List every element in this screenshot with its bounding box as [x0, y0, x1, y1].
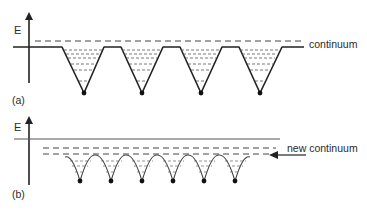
- atom-dot: [109, 179, 114, 184]
- well-centers-b: [78, 179, 238, 184]
- atom-dot: [171, 179, 176, 184]
- new-continuum-label: new continuum: [287, 142, 358, 154]
- well-centers-a: [82, 91, 263, 96]
- atom-dot: [233, 179, 238, 184]
- atom-dot: [140, 91, 145, 96]
- panel-label-b: (b): [12, 188, 25, 200]
- bound-levels-b: [70, 161, 246, 172]
- atom-dot: [202, 179, 207, 184]
- atom-dot: [258, 91, 263, 96]
- axis-label-e-b: E: [14, 121, 21, 133]
- atom-dot: [140, 179, 145, 184]
- panel-label-a: (a): [12, 94, 25, 106]
- energy-well-diagram: E: [0, 0, 367, 210]
- panel-a: E: [12, 16, 358, 106]
- continuum-label: continuum: [309, 38, 358, 50]
- axis-label-e-a: E: [14, 24, 21, 36]
- atom-dot: [82, 91, 87, 96]
- panel-b: E new conti: [12, 120, 358, 200]
- atom-dot: [199, 91, 204, 96]
- potential-profile-b: [65, 155, 250, 181]
- atom-dot: [78, 179, 83, 184]
